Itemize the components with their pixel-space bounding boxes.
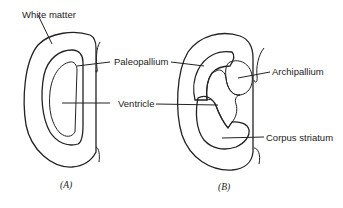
ventricle-label: Ventricle: [118, 98, 154, 109]
brain-hemisphere-diagram: White matter (A) Paleopallium Ventricle …: [0, 0, 343, 208]
medial-wall-top-b: [254, 48, 264, 82]
paleopallium-region: [42, 50, 83, 145]
paleopallium-leader-b: [171, 62, 204, 66]
corpus-striatum-label: Corpus striatum: [266, 132, 333, 143]
panel-b-caption: (B): [218, 182, 230, 193]
ventricle-region: [49, 62, 77, 136]
paleopallium-leader-a: [77, 62, 110, 66]
archipallium-label: Archipallium: [272, 66, 324, 77]
panel-a: White matter (A): [22, 9, 110, 191]
medial-wall-bottom-b: [254, 148, 260, 164]
panel-b: Archipallium Corpus striatum (B): [178, 34, 334, 193]
panel-a-caption: (A): [60, 180, 72, 191]
corpus-striatum-leader: [222, 137, 264, 138]
paleopallium-label: Paleopallium: [114, 56, 168, 67]
white-matter-label: White matter: [22, 9, 76, 20]
ventricle-leader-b: [156, 104, 218, 105]
paleopallium-region-b: [194, 52, 234, 100]
archipallium-leader: [238, 72, 270, 78]
